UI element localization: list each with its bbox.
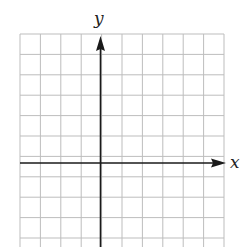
- coordinate-grid: x y: [0, 0, 249, 247]
- x-axis-label: x: [230, 152, 240, 172]
- grid-lines: [20, 34, 224, 247]
- y-axis-arrow-icon: [96, 36, 105, 51]
- y-axis-label: y: [93, 8, 104, 28]
